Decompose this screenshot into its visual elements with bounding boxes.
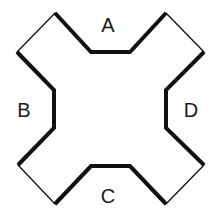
cross-shape-diagram: A B C D — [0, 0, 213, 217]
label-c: C — [101, 185, 115, 207]
corner-edge-bottom-right — [166, 165, 204, 204]
corner-edge-top-right — [166, 13, 204, 52]
corner-edge-bottom-left — [18, 165, 55, 204]
corner-edge-top-left — [17, 13, 55, 52]
label-d: D — [184, 99, 198, 121]
label-a: A — [101, 14, 115, 36]
label-b: B — [17, 99, 30, 121]
